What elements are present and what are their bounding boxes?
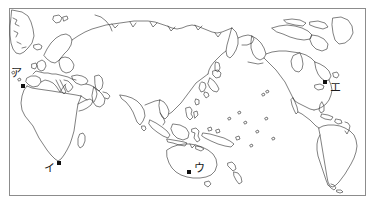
map-label-i: イ — [44, 163, 55, 174]
map-label-u: ウ — [194, 163, 205, 174]
map-label-a: ア — [11, 68, 22, 79]
map-label-e: エ — [330, 82, 341, 93]
map-marker-a[interactable] — [21, 84, 25, 88]
map-marker-u[interactable] — [187, 170, 191, 174]
map-frame-border — [9, 8, 366, 196]
world-map-figure: ア イ ウ エ — [0, 0, 376, 211]
map-marker-e[interactable] — [323, 80, 327, 84]
map-marker-i[interactable] — [57, 161, 61, 165]
